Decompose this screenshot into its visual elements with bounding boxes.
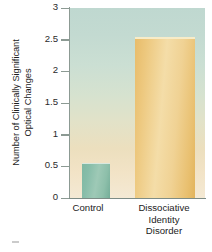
y-tick-mark-3 <box>61 8 69 10</box>
x-tick-label-did-line-3: Disorder <box>120 225 208 237</box>
plot-area <box>70 8 205 198</box>
y-tick-mark-1.5 <box>61 103 69 105</box>
y-tick-mark-0 <box>61 198 69 200</box>
y-tick-label-2: 2 <box>38 65 58 76</box>
y-tick-label-1.5: 1.5 <box>38 97 58 108</box>
y-axis-title-line-1: Number of Clinically Significant <box>11 39 21 166</box>
page-artifact-mark <box>12 241 19 243</box>
y-tick-label-0.5: 0.5 <box>38 160 58 171</box>
y-tick-mark-1 <box>61 134 69 136</box>
y-tick-label-2.5: 2.5 <box>38 34 58 45</box>
y-axis-title-line-2: Optical Changes <box>22 39 34 166</box>
y-axis-title-text: Number of Clinically Significant Optical… <box>11 39 34 166</box>
y-tick-label-3: 3 <box>38 2 58 13</box>
x-tick-label-did-line-1: Dissociative <box>120 202 208 214</box>
y-tick-label-1: 1 <box>38 129 58 140</box>
y-tick-mark-2.5 <box>61 39 69 41</box>
y-axis-title: Number of Clinically Significant Optical… <box>2 0 42 205</box>
bar-control <box>82 163 110 198</box>
x-tick-label-dissociative-identity-disorder: Dissociative Identity Disorder <box>120 202 208 237</box>
bar-chart-figure: Number of Clinically Significant Optical… <box>0 0 212 252</box>
bar-dissociative-identity-disorder <box>135 37 195 199</box>
y-tick-mark-0.5 <box>61 166 69 168</box>
y-tick-label-0: 0 <box>38 192 58 203</box>
y-tick-mark-2 <box>61 71 69 73</box>
x-tick-label-control: Control <box>57 202 119 214</box>
x-tick-label-did-line-2: Identity <box>120 214 208 226</box>
x-tick-label-control-line-1: Control <box>73 202 104 213</box>
